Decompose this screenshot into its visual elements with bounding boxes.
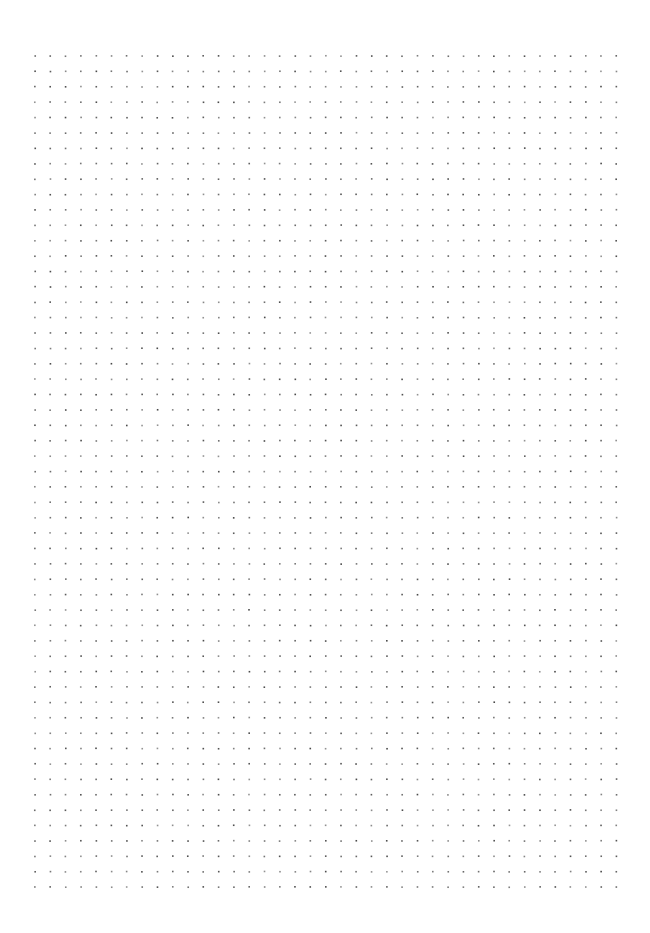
grid-dot	[157, 563, 159, 565]
grid-dot	[294, 163, 296, 165]
grid-dot	[493, 809, 495, 811]
grid-dot	[111, 471, 113, 473]
grid-dot	[248, 347, 250, 349]
grid-dot	[371, 347, 373, 349]
grid-dot	[172, 656, 174, 658]
grid-dot	[493, 486, 495, 488]
grid-dot	[463, 409, 465, 411]
grid-dot	[447, 178, 449, 180]
grid-dot	[371, 440, 373, 442]
grid-dot	[524, 548, 526, 550]
grid-dot	[524, 809, 526, 811]
grid-dot	[187, 717, 189, 719]
grid-dot	[203, 686, 205, 688]
grid-dot	[402, 225, 404, 227]
grid-dot	[49, 455, 51, 457]
grid-dot	[34, 563, 36, 565]
grid-dot	[65, 286, 67, 288]
grid-dot	[371, 640, 373, 642]
grid-dot	[539, 548, 541, 550]
grid-dot	[493, 579, 495, 581]
grid-dot	[616, 102, 618, 104]
grid-dot	[432, 702, 434, 704]
grid-dot	[80, 178, 82, 180]
grid-dot	[478, 579, 480, 581]
grid-dot	[509, 332, 511, 334]
grid-dot	[447, 240, 449, 242]
grid-dot	[294, 563, 296, 565]
grid-dot	[309, 255, 311, 257]
grid-dot	[126, 840, 128, 842]
grid-dot	[417, 456, 419, 458]
grid-dot	[294, 271, 296, 273]
grid-dot	[585, 501, 587, 503]
grid-dot	[478, 55, 480, 57]
grid-dot	[371, 255, 373, 257]
grid-dot	[371, 378, 373, 380]
grid-dot	[157, 132, 159, 134]
grid-dot	[555, 86, 557, 88]
grid-dot	[202, 225, 204, 227]
grid-dot	[203, 717, 205, 719]
grid-dot	[585, 209, 587, 211]
grid-dot	[508, 532, 510, 534]
grid-dot	[386, 425, 388, 427]
grid-dot	[172, 794, 174, 796]
grid-dot	[432, 517, 434, 519]
grid-dot	[478, 424, 480, 426]
grid-dot	[570, 225, 572, 227]
grid-dot	[447, 594, 449, 596]
grid-dot	[356, 55, 358, 57]
grid-dot	[615, 163, 617, 165]
grid-dot	[157, 840, 159, 842]
grid-dot	[111, 655, 113, 657]
grid-dot	[233, 702, 235, 704]
grid-dot	[95, 224, 97, 226]
grid-dot	[509, 517, 511, 519]
grid-dot	[616, 363, 618, 365]
grid-dot	[203, 748, 205, 750]
grid-dot	[172, 55, 174, 57]
grid-dot	[157, 286, 159, 288]
grid-dot	[340, 440, 342, 442]
grid-dot	[279, 440, 281, 442]
grid-dot	[50, 332, 52, 334]
grid-dot	[202, 348, 204, 350]
grid-dot	[248, 55, 250, 57]
grid-dot	[508, 887, 510, 889]
grid-dot	[309, 270, 311, 272]
grid-dot	[157, 594, 159, 596]
grid-dot	[554, 148, 556, 150]
grid-dot	[539, 363, 541, 365]
grid-dot	[309, 763, 311, 765]
grid-dot	[96, 240, 98, 242]
grid-dot	[264, 594, 266, 596]
grid-dot	[65, 271, 67, 273]
grid-dot	[478, 502, 480, 504]
grid-dot	[141, 517, 143, 519]
grid-dot	[126, 486, 128, 488]
grid-dot	[356, 440, 358, 442]
grid-dot	[539, 471, 541, 473]
grid-dot	[585, 778, 587, 780]
grid-dot	[111, 209, 113, 211]
grid-dot	[401, 855, 403, 857]
grid-dot	[478, 255, 480, 257]
grid-dot	[524, 378, 526, 380]
grid-dot	[585, 302, 587, 304]
grid-dot	[340, 517, 342, 519]
grid-dot	[96, 363, 98, 365]
grid-dot	[279, 194, 281, 196]
grid-dot	[325, 132, 327, 134]
grid-dot	[371, 317, 373, 319]
grid-dot	[80, 425, 82, 427]
grid-dot	[600, 224, 602, 226]
grid-dot	[50, 855, 52, 857]
grid-dot	[294, 101, 296, 103]
grid-dot	[249, 532, 251, 534]
grid-dot	[95, 394, 97, 396]
grid-dot	[371, 271, 373, 273]
grid-dot	[80, 748, 82, 750]
grid-dot	[141, 286, 143, 288]
grid-dot	[616, 425, 618, 427]
